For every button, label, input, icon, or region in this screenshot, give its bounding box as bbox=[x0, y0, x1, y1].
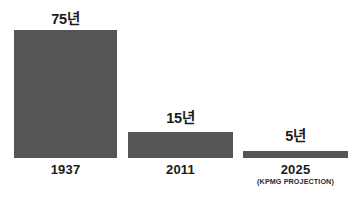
bar-chart: 75년 1937 15년 2011 5년 2025 (KPMG PROJECTI… bbox=[0, 0, 358, 198]
bar-category-label: 1937 bbox=[14, 162, 117, 177]
bar-rect bbox=[128, 132, 233, 158]
bar-value-label: 5년 bbox=[243, 128, 348, 144]
bar-value-label: 15년 bbox=[128, 110, 233, 126]
bar-rect bbox=[14, 30, 117, 158]
bar-category-label: 2011 bbox=[128, 162, 233, 177]
bar-category-sublabel: (KPMG PROJECTION) bbox=[243, 177, 348, 186]
bar-value-label: 75년 bbox=[14, 11, 117, 27]
bar-rect bbox=[243, 151, 348, 158]
bar-category-label: 2025 bbox=[243, 162, 348, 177]
